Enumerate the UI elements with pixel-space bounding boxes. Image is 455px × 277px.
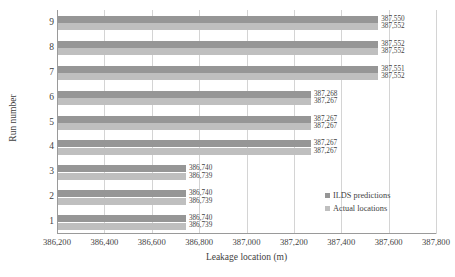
value-label-actual: 387,552: [381, 23, 404, 30]
value-label-run-5: 387,267387,267: [314, 116, 337, 131]
legend-label: Actual locations: [333, 204, 387, 213]
legend-swatch-icon: [325, 193, 330, 198]
y-tick-label-7: 7: [26, 67, 54, 77]
bar-group-run-4: 387,267387,267: [58, 140, 437, 155]
bar-actual-location-run-8: [58, 48, 378, 55]
bar-actual-location-run-9: [58, 23, 378, 30]
value-label-run-8: 387,552387,552: [381, 41, 404, 56]
y-tick-label-6: 6: [26, 92, 54, 102]
legend-item-actual-locations[interactable]: Actual locations: [325, 202, 390, 215]
bar-ilds-prediction-run-9: [58, 16, 378, 23]
bar-group-run-6: 387,268387,267: [58, 91, 437, 106]
bar-actual-location-run-3: [58, 173, 186, 180]
value-label-run-1: 386,740386,739: [189, 215, 212, 230]
bar-actual-location-run-6: [58, 98, 311, 105]
y-axis-tick-labels: 123456789: [22, 10, 54, 234]
y-tick-label-9: 9: [26, 17, 54, 27]
y-tick-label-4: 4: [26, 141, 54, 151]
x-tick-label-387800: 387,800: [406, 237, 455, 247]
bar-actual-location-run-7: [58, 73, 378, 80]
bar-ilds-prediction-run-2: [58, 190, 186, 197]
bar-actual-location-run-4: [58, 148, 311, 155]
value-label-run-2: 386,740386,739: [189, 190, 212, 205]
value-label-run-7: 387,551387,552: [381, 66, 404, 81]
value-label-run-3: 386,740386,739: [189, 165, 212, 180]
x-axis-tick-labels: 386,200386,400386,600386,800387,000387,2…: [57, 237, 436, 251]
bar-actual-location-run-1: [58, 223, 186, 230]
value-label-actual: 386,739: [189, 173, 212, 180]
bar-actual-location-run-2: [58, 198, 186, 205]
y-axis-title: Run number: [8, 68, 18, 168]
bar-group-run-9: 387,550387,552: [58, 16, 437, 31]
value-label-actual: 386,739: [189, 222, 212, 229]
legend-label: ILDS predictions: [333, 191, 390, 200]
bar-group-run-7: 387,551387,552: [58, 66, 437, 81]
y-tick-label-1: 1: [26, 216, 54, 226]
x-axis-line: [57, 233, 436, 234]
y-tick-label-2: 2: [26, 191, 54, 201]
value-label-actual: 387,552: [381, 48, 404, 55]
value-label-actual: 386,739: [189, 198, 212, 205]
y-tick-label-8: 8: [26, 42, 54, 52]
x-axis-title: Leakage location (m): [57, 252, 436, 262]
value-label-actual: 387,267: [314, 98, 337, 105]
bar-group-run-8: 387,552387,552: [58, 41, 437, 56]
bar-ilds-prediction-run-4: [58, 140, 311, 147]
bar-group-run-5: 387,267387,267: [58, 116, 437, 131]
chart-legend: ILDS predictionsActual locations: [325, 189, 390, 215]
bar-ilds-prediction-run-1: [58, 215, 186, 222]
value-label-actual: 387,267: [314, 148, 337, 155]
value-label-actual: 387,267: [314, 123, 337, 130]
value-label-actual: 387,552: [381, 73, 404, 80]
bar-ilds-prediction-run-8: [58, 41, 378, 48]
y-axis-line: [57, 10, 58, 234]
bar-group-run-3: 386,740386,739: [58, 165, 437, 180]
bar-actual-location-run-5: [58, 123, 311, 130]
legend-item-ilds-predictions[interactable]: ILDS predictions: [325, 189, 390, 202]
bar-group-run-1: 386,740386,739: [58, 215, 437, 230]
bar-ilds-prediction-run-7: [58, 66, 378, 73]
legend-swatch-icon: [325, 206, 330, 211]
bar-ilds-prediction-run-5: [58, 116, 311, 123]
value-label-run-4: 387,267387,267: [314, 140, 337, 155]
bar-ilds-prediction-run-3: [58, 165, 186, 172]
bar-ilds-prediction-run-6: [58, 91, 311, 98]
value-label-run-9: 387,550387,552: [381, 16, 404, 31]
y-tick-label-3: 3: [26, 166, 54, 176]
value-label-run-6: 387,268387,267: [314, 91, 337, 106]
y-tick-label-5: 5: [26, 117, 54, 127]
